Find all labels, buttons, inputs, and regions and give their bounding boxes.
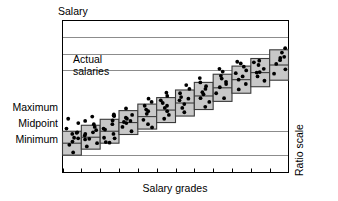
y-axis-label: Salary bbox=[58, 5, 89, 17]
actual-salary-dot bbox=[104, 140, 108, 144]
actual-salary-dot bbox=[70, 132, 74, 136]
actual-salary-dot bbox=[257, 63, 261, 67]
salary-range-box bbox=[100, 119, 119, 143]
actual-salary-dot bbox=[113, 136, 117, 140]
x-axis-label: Salary grades bbox=[143, 182, 208, 194]
actual-salary-dot bbox=[121, 125, 125, 129]
actual-salary-dot bbox=[204, 84, 208, 88]
actual-salary-dot bbox=[150, 100, 154, 104]
chart-canvas: Salary Actual salaries Maximum Midpoint … bbox=[0, 0, 338, 201]
actual-salary-dot bbox=[282, 55, 286, 59]
actual-salary-dot bbox=[102, 127, 106, 131]
actual-salary-dot bbox=[122, 120, 126, 124]
actual-salary-dot bbox=[241, 75, 245, 79]
actual-salary-dot bbox=[178, 98, 182, 102]
actual-salary-dot bbox=[76, 136, 80, 140]
actual-salary-dot bbox=[108, 141, 112, 145]
actual-salary-dot bbox=[83, 137, 87, 141]
actual-salary-dot bbox=[130, 129, 134, 133]
actual-salary-dot bbox=[244, 69, 248, 73]
actual-salary-dot bbox=[143, 104, 147, 108]
actual-salary-dot bbox=[280, 51, 284, 55]
actual-salary-dot bbox=[144, 108, 148, 112]
actual-salary-dot bbox=[112, 132, 116, 136]
y-tick-label-minimum: Minimum bbox=[15, 133, 58, 145]
actual-salary-dot bbox=[188, 87, 192, 91]
actual-salary-dot bbox=[235, 60, 239, 64]
actual-salary-dot bbox=[186, 97, 190, 101]
actual-salary-dot bbox=[167, 113, 171, 117]
actual-salary-dot bbox=[242, 65, 246, 69]
actual-salary-dot bbox=[67, 143, 71, 147]
actual-salary-dot bbox=[182, 102, 186, 106]
y-tick-label-maximum: Maximum bbox=[12, 101, 58, 113]
actual-salary-dot bbox=[124, 107, 128, 111]
actual-salary-dot bbox=[218, 67, 222, 71]
actual-salary-dot bbox=[71, 151, 75, 155]
actual-salary-dot bbox=[274, 62, 278, 66]
actual-salary-dot bbox=[87, 137, 91, 141]
actual-salary-dot bbox=[283, 67, 287, 71]
actual-salary-dot bbox=[65, 127, 69, 131]
actual-salary-dot bbox=[165, 109, 169, 113]
actual-salary-dot bbox=[199, 96, 203, 100]
actual-salary-dot bbox=[207, 100, 211, 104]
actual-salary-dot bbox=[219, 74, 223, 78]
actual-salary-dot bbox=[66, 117, 70, 121]
actual-salary-dot bbox=[184, 83, 188, 87]
annotation-actual-salaries-line1: Actual bbox=[73, 53, 102, 65]
actual-salary-dot bbox=[244, 82, 248, 86]
actual-salary-dot bbox=[75, 130, 79, 134]
actual-salary-dot bbox=[256, 75, 260, 79]
actual-salary-dot bbox=[203, 105, 207, 109]
actual-salary-dot bbox=[110, 122, 114, 126]
actual-salary-dot bbox=[83, 119, 87, 123]
actual-salary-dot bbox=[182, 110, 186, 114]
actual-salary-dot bbox=[159, 98, 163, 102]
actual-salary-dot bbox=[198, 76, 202, 80]
annotation-actual-salaries-line2: salaries bbox=[73, 65, 109, 77]
actual-salary-dot bbox=[224, 80, 228, 84]
actual-salary-dot bbox=[180, 106, 184, 110]
actual-salary-dot bbox=[178, 91, 182, 95]
actual-salary-dot bbox=[272, 72, 276, 76]
actual-salary-dot bbox=[94, 128, 98, 132]
actual-salary-dot bbox=[130, 113, 134, 117]
actual-salary-dot bbox=[76, 121, 80, 125]
actual-salary-dot bbox=[252, 60, 256, 64]
actual-salary-dot bbox=[146, 122, 150, 126]
salary-structure-chart: Salary Actual salaries Maximum Midpoint … bbox=[0, 0, 338, 201]
actual-salary-dot bbox=[147, 97, 151, 101]
actual-salary-dot bbox=[278, 56, 282, 60]
actual-salary-dot bbox=[258, 70, 262, 74]
actual-salary-dot bbox=[142, 118, 146, 122]
actual-salary-dot bbox=[214, 91, 218, 95]
actual-salary-dot bbox=[111, 118, 115, 122]
actual-salary-dot bbox=[165, 94, 169, 98]
salary-range-box bbox=[119, 111, 138, 135]
actual-salary-dot bbox=[129, 119, 133, 123]
actual-salary-dot bbox=[234, 71, 238, 75]
actual-salary-dot bbox=[222, 96, 226, 100]
actual-salary-dot bbox=[90, 115, 94, 119]
actual-salary-dot bbox=[165, 104, 169, 108]
actual-salary-dot bbox=[221, 70, 225, 74]
actual-salary-dot bbox=[239, 61, 243, 65]
salary-range-box bbox=[270, 50, 289, 80]
actual-salary-dot bbox=[179, 95, 183, 99]
actual-salary-dot bbox=[91, 130, 95, 134]
actual-salary-dot bbox=[237, 88, 241, 92]
actual-salary-dot bbox=[95, 141, 99, 145]
actual-salary-dot bbox=[102, 136, 106, 140]
actual-salary-dot bbox=[262, 67, 266, 71]
actual-salary-dot bbox=[92, 122, 96, 126]
actual-salary-dot bbox=[257, 59, 261, 63]
actual-salary-dot bbox=[112, 113, 116, 117]
actual-salary-dot bbox=[150, 126, 154, 130]
actual-salary-dot bbox=[85, 145, 89, 149]
actual-salary-dot bbox=[283, 46, 287, 50]
right-axis-label-ratio-scale: Ratio scale bbox=[293, 124, 305, 176]
actual-salary-dot bbox=[165, 91, 169, 95]
actual-salary-dot bbox=[72, 136, 76, 140]
actual-salary-dot bbox=[200, 90, 204, 94]
